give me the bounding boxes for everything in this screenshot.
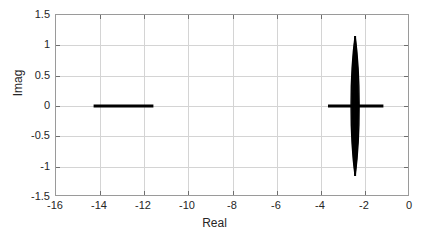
plot-axes bbox=[55, 14, 409, 196]
data-series-layer bbox=[56, 15, 410, 197]
xtick-label: -10 bbox=[167, 198, 207, 212]
figure: -16 -14 -12 -10 -8 -6 -4 -2 0 1.5 1 0.5 … bbox=[0, 0, 429, 244]
xtick-label: -6 bbox=[256, 198, 296, 212]
y-axis-title: Imag bbox=[11, 53, 25, 113]
xtick-label: -2 bbox=[344, 198, 384, 212]
ytick-label: -0.5 bbox=[6, 129, 50, 141]
ytick-label: 1.5 bbox=[6, 8, 50, 20]
xtick-label: -4 bbox=[300, 198, 340, 212]
xtick-label: 0 bbox=[389, 198, 429, 212]
x-axis-title: Real bbox=[0, 216, 429, 230]
xtick-label: -12 bbox=[123, 198, 163, 212]
ytick-label: 1 bbox=[6, 38, 50, 50]
ytick-label: -1.5 bbox=[6, 190, 50, 202]
xtick-label: -8 bbox=[212, 198, 252, 212]
xtick-label: -14 bbox=[79, 198, 119, 212]
ytick-label: -1 bbox=[6, 160, 50, 172]
